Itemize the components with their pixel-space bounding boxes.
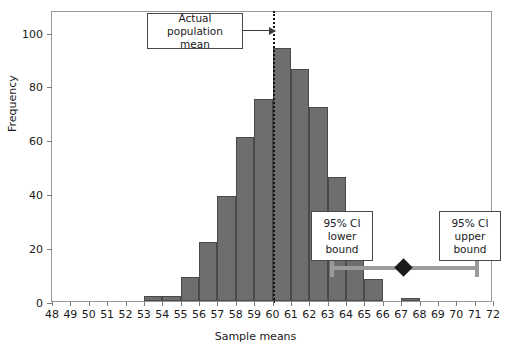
callout-upper-line1: 95% CI [451,217,488,230]
x-axis-tick [199,301,200,306]
y-axis-tick-label: 80 [29,80,43,96]
callout-actual-population-mean: Actual population mean [147,13,243,49]
x-axis-tick [364,301,365,306]
y-axis-title: Frequency [6,75,19,132]
x-axis-tick [493,301,494,306]
callout-mean-line2: population mean [154,25,236,51]
histogram-bar [199,242,217,301]
x-axis-tick [420,301,421,306]
y-axis-tick-label: 20 [29,242,43,258]
x-axis-tick [254,301,255,306]
x-axis-tick [126,301,127,306]
y-axis-tick: 60 [47,141,52,142]
x-axis-tick [236,301,237,306]
x-axis-tick [162,301,163,306]
histogram-bar [236,137,254,301]
x-axis-tick [346,301,347,306]
callout-ci-lower-bound: 95% CI lower bound [311,211,373,261]
callout-mean-line1: Actual [154,12,236,25]
x-axis-tick [181,301,182,306]
y-axis-tick: 40 [47,195,52,196]
x-axis-tick [328,301,329,306]
histogram-bar [309,107,327,301]
population-mean-line [273,11,275,303]
y-axis-tick: 100 [47,34,52,35]
histogram-bar [273,48,291,301]
callout-lower-line3: bound [325,243,358,256]
callout-upper-line3: bound [453,243,486,256]
y-axis-tick: 80 [47,87,52,88]
y-axis-tick-label: 60 [29,134,43,150]
x-axis-tick [52,301,53,306]
x-axis-title: Sample means [0,330,511,343]
x-axis-tick [144,301,145,306]
y-axis-tick: 20 [47,249,52,250]
callout-lower-line2: lower [328,230,357,243]
x-axis-tick [475,301,476,306]
x-axis-tick [273,301,274,306]
mean-callout-arrow-icon [243,30,275,31]
histogram-bars [52,12,491,301]
callout-upper-line2: upper [455,230,486,243]
x-axis-tick-label: 72 [480,308,506,322]
y-axis-tick-label: 40 [29,188,43,204]
callout-ci-upper-bound: 95% CI upper bound [439,211,501,261]
histogram-bar [181,277,199,301]
callout-lower-line1: 95% CI [323,217,360,230]
x-axis-tick [217,301,218,306]
x-axis-tick [401,301,402,306]
x-axis-tick [291,301,292,306]
x-axis-tick [309,301,310,306]
histogram-figure: Frequency Sample means 020406080100 4849… [0,0,511,360]
x-axis-tick [70,301,71,306]
x-axis-tick [383,301,384,306]
x-axis-tick [456,301,457,306]
plot-area: 020406080100 484950515253545556575859606… [51,11,492,302]
x-axis-tick [89,301,90,306]
histogram-bar [162,296,180,301]
histogram-bar [254,99,272,301]
x-axis-tick [438,301,439,306]
histogram-bar [217,196,235,301]
histogram-bar [291,69,309,301]
x-axis-tick [107,301,108,306]
y-axis-tick-label: 100 [22,27,43,43]
histogram-bar [144,296,162,301]
histogram-bar [401,298,419,301]
histogram-bar [364,279,382,301]
